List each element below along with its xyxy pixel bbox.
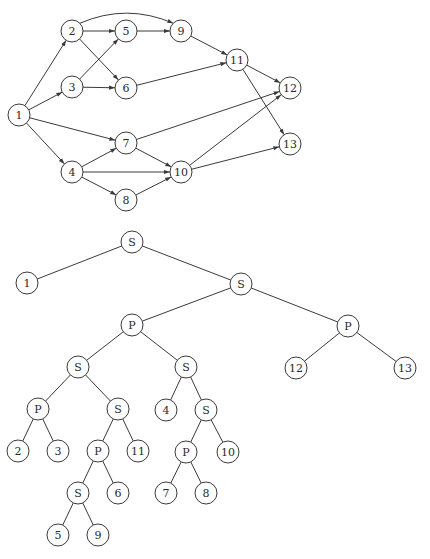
tree-node-label: 2 [15,445,22,458]
dag-node-label: 9 [178,25,185,38]
dag-node-label: 5 [123,25,130,38]
tree-node-label: P [34,403,42,416]
tree-node-label: 8 [203,487,210,500]
tree-node: P [121,314,143,336]
tree-edge-S-to-4 [171,377,182,400]
tree-node-label: P [128,319,136,332]
dag-node-label: 8 [123,194,130,207]
dag-node: 5 [115,20,137,42]
dag-edge-1-to-7 [30,118,116,140]
tree-edge-S-to-9 [83,503,94,525]
tree-node-label: P [344,320,352,333]
tree-node: P [27,398,49,420]
tree-node: 8 [195,482,217,504]
tree-edge-P-to-12 [305,333,340,361]
tree-edge-P-to-S [83,461,94,483]
tree-node-label: S [114,403,122,416]
dag-edge-7-to-12 [136,91,279,139]
tree-node-label: 13 [398,362,412,375]
tree-node-label: 9 [95,529,102,542]
tree-node-label: S [128,236,136,249]
tree-edge-P-to-S [141,332,178,360]
tree-node: 3 [47,440,69,462]
diagram-canvas: 12345678910111213 S1SPP1213SSPS4S23P11P1… [0,0,430,559]
tree-edge-P-to-7 [171,462,181,483]
dag-node: 1 [8,104,30,126]
dag-edge-1-to-4 [26,123,64,164]
dag-edge-10-to-13 [192,147,280,170]
tree-edge-S-to-P [191,420,202,442]
tree-node: 11 [127,440,149,462]
tree-node-label: 6 [115,487,122,500]
tree-edge-S-to-1 [37,246,122,279]
tree-nodes: S1SPP1213SSPS4S23P11P10S67859 [7,231,416,546]
tree-node: 12 [285,357,307,379]
dag-node: 6 [115,77,137,99]
dag-node-label: 10 [174,166,188,179]
tree-edge-P-to-2 [23,419,34,441]
tree-edge-S-to-P [142,288,230,321]
dag-node: 8 [115,189,137,211]
dag-node: 12 [279,77,301,99]
tree-node: P [175,441,197,463]
dag-node: 10 [170,161,192,183]
tree-edge-S-to-P [46,375,71,401]
tree-node-label: 11 [131,445,145,458]
tree-node-label: 3 [55,445,62,458]
dag-edge-1-to-2 [25,40,66,105]
tree-node: P [337,315,359,337]
tree-edge-S-to-P [103,419,114,441]
tree-node: 6 [107,482,129,504]
dag-edge-7-to-10 [136,148,172,167]
tree-node-label: P [94,445,102,458]
dag-node: 7 [115,132,137,154]
tree-node: P [87,440,109,462]
dag-edge-4-to-8 [82,177,116,195]
dag-nodes: 12345678910111213 [8,20,301,211]
tree-node: S [107,398,129,420]
dag-node: 13 [279,133,301,155]
tree-node-label: S [237,278,245,291]
dag-edge-11-to-12 [247,65,281,83]
tree-node: 13 [394,357,416,379]
tree-node-label: 1 [24,277,31,290]
dag-node-label: 11 [230,54,244,67]
dag-edge-3-to-6 [83,87,115,88]
tree-node-label: S [74,487,82,500]
dag-edge-4-to-7 [82,148,117,167]
dag-node-label: 1 [16,109,23,122]
tree-node-label: 12 [289,362,303,375]
tree-edge-P-to-3 [43,419,54,441]
tree-node: S [67,482,89,504]
tree-node-label: S [202,404,210,417]
dag-node: 3 [61,76,83,98]
tree-node-label: 7 [163,487,170,500]
tree-node: 10 [217,441,239,463]
dag-node: 11 [226,49,248,71]
dag-node-label: 7 [123,137,130,150]
tree-edge-S-to-P [251,288,338,322]
dag-node: 9 [170,20,192,42]
tree-edge-S-to-10 [211,420,223,443]
dag-node-label: 6 [123,82,130,95]
dag-edge-6-to-11 [137,63,227,86]
tree-node-label: 10 [221,446,235,459]
tree-edge-P-to-6 [103,461,114,483]
dag-node: 4 [61,161,83,183]
dag-edge-9-to-11 [191,36,227,55]
dag-node-label: 12 [283,82,297,95]
tree-node: S [175,356,197,378]
tree-edge-S-to-S [142,246,230,280]
tree-edge-P-to-8 [191,462,201,483]
tree-node-label: 5 [55,529,62,542]
tree-node: S [67,356,89,378]
tree-edge-S-to-11 [123,419,134,441]
tree-edge-S-to-S [86,375,111,401]
dag-node-label: 13 [283,138,297,151]
dag-edge-8-to-10 [136,177,171,195]
tree-edge-P-to-13 [357,333,396,362]
tree-edge-P-to-S [87,332,124,360]
dag-edge-1-to-3 [29,92,63,110]
tree-node: 1 [16,272,38,294]
tree-node-label: S [74,361,82,374]
